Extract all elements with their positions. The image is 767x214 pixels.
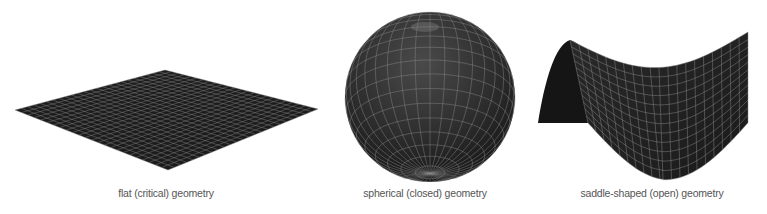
flat-plane: [15, 70, 318, 170]
caption-flat: flat (critical) geometry: [118, 187, 214, 199]
geometry-figure: [0, 0, 767, 186]
caption-spherical: spherical (closed) geometry: [363, 187, 487, 199]
saddle-surface: [538, 32, 748, 180]
caption-saddle: saddle-shaped (open) geometry: [580, 187, 723, 199]
sphere: [345, 12, 515, 182]
